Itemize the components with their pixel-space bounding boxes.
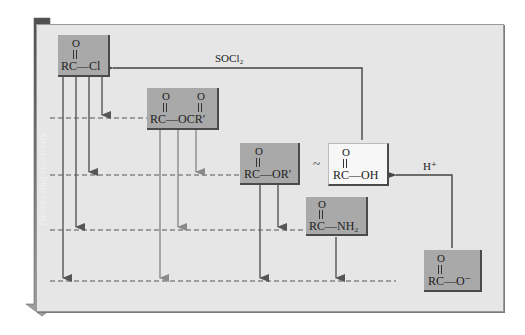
double-bond-2 — [198, 103, 202, 112]
carboxylic-acid-formula: RC—OH — [333, 168, 378, 183]
reactivity-diagram: Decreasing reactivity — [0, 0, 525, 335]
double-bond — [343, 159, 347, 168]
carbonyl-oxygen: O — [437, 252, 445, 264]
acyl-chloride-box: O RC—Cl — [58, 35, 110, 77]
carbonyl-oxygen-2: O — [197, 90, 205, 102]
h-plus-reagent-label: H⁺ — [423, 160, 437, 173]
carboxylic-acid-box: O RC—OH — [328, 143, 389, 186]
carboxylate-box: O RC—O⁻ — [424, 250, 482, 292]
amide-box: O RC—NH₂ — [306, 197, 368, 236]
carboxylate-formula: RC—O⁻ — [428, 274, 471, 289]
anhydride-box: O O RC—OCR′ — [147, 88, 219, 130]
ester-box: O RC—OR′ — [240, 143, 300, 185]
double-bond — [256, 158, 260, 167]
anhydride-formula: RC—OCR′ — [150, 112, 205, 127]
carbonyl-oxygen: O — [72, 37, 80, 49]
double-bond — [438, 265, 442, 274]
amide-formula: RC—NH₂ — [309, 219, 359, 234]
double-bond — [73, 50, 77, 59]
carbonyl-oxygen: O — [255, 145, 263, 157]
double-bond — [163, 103, 167, 112]
carbonyl-oxygen: O — [162, 90, 170, 102]
carbonyl-oxygen: O — [318, 198, 326, 210]
ester-formula: RC—OR′ — [244, 167, 291, 182]
socl2-reagent-label: SOCl₂ — [215, 52, 243, 64]
carbonyl-oxygen: O — [342, 146, 350, 158]
acyl-chloride-formula: RC—Cl — [61, 59, 100, 74]
double-bond — [319, 210, 323, 219]
equivalence-tilde: ~ — [313, 156, 320, 172]
